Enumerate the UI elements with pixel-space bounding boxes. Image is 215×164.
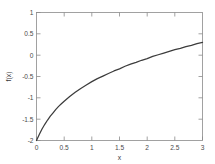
y-tick-label: 0.5 bbox=[24, 30, 33, 37]
y-axis-title: f(x) bbox=[5, 72, 13, 82]
y-tick-labels: 1 0.5 0 -0.5 -1 -1.5 -2 bbox=[22, 9, 34, 144]
x-tick-label: 1.5 bbox=[115, 144, 124, 151]
x-tick-labels: 0 0.5 1 1.5 2 2.5 3 bbox=[35, 144, 205, 151]
x-tick-label: 3 bbox=[201, 144, 205, 151]
y-tick-label: 1 bbox=[30, 9, 34, 16]
axes-box bbox=[37, 13, 203, 141]
x-tick-label: 2.5 bbox=[170, 144, 179, 151]
x-tick-label: 2 bbox=[145, 144, 149, 151]
x-axis-ticks bbox=[37, 13, 203, 141]
y-axis-ticks bbox=[37, 13, 203, 141]
chart-figure: 0 0.5 1 1.5 2 2.5 3 1 0.5 0 -0.5 -1 -1.5… bbox=[0, 0, 215, 164]
y-tick-label: -1.5 bbox=[22, 116, 34, 123]
x-tick-label: 0.5 bbox=[60, 144, 69, 151]
data-series-line bbox=[37, 42, 203, 140]
plot-area-border bbox=[37, 13, 203, 141]
x-tick-label: 0 bbox=[35, 144, 39, 151]
y-tick-label: -1 bbox=[28, 94, 34, 101]
x-axis-title: x bbox=[118, 154, 122, 161]
y-tick-label: -0.5 bbox=[22, 73, 34, 80]
plot-svg: 0 0.5 1 1.5 2 2.5 3 1 0.5 0 -0.5 -1 -1.5… bbox=[0, 0, 215, 164]
x-tick-label: 1 bbox=[90, 144, 94, 151]
y-tick-label: 0 bbox=[30, 52, 34, 59]
y-tick-label: -2 bbox=[28, 137, 34, 144]
